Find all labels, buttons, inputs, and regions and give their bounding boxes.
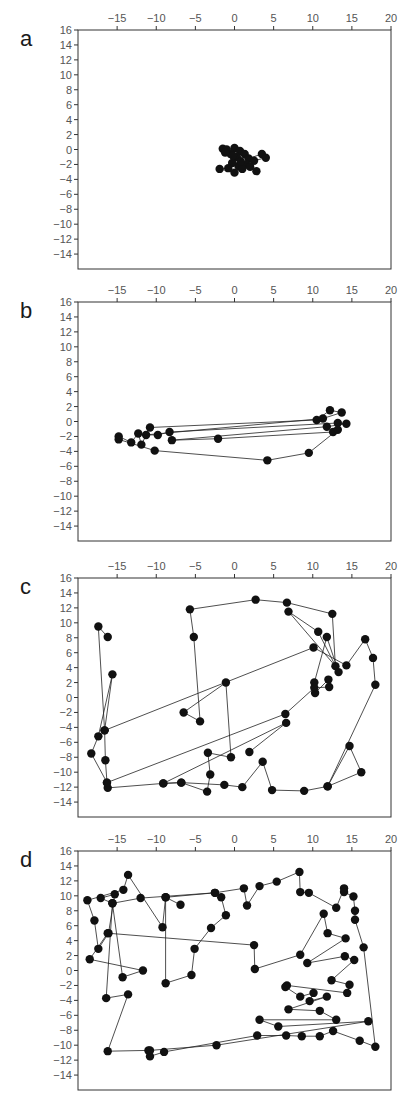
x-tick-label: −5 xyxy=(189,12,202,24)
y-tick-label: −4 xyxy=(59,994,72,1006)
x-tick-label: 10 xyxy=(307,833,319,845)
data-point xyxy=(190,633,198,641)
data-point xyxy=(238,165,246,173)
data-point xyxy=(258,758,266,766)
data-point xyxy=(323,633,331,641)
y-tick-label: 10 xyxy=(60,617,72,629)
data-point xyxy=(211,889,219,897)
data-point xyxy=(282,1031,290,1039)
x-tick-label: 5 xyxy=(271,560,277,572)
y-tick-label: 10 xyxy=(60,69,72,81)
figure: a−15−10−5051015201614121086420−2−4−6−8−1… xyxy=(0,0,407,1101)
data-point xyxy=(255,882,263,890)
data-point xyxy=(204,749,212,757)
data-point xyxy=(104,1047,112,1055)
y-tick-label: −12 xyxy=(53,233,72,245)
x-tick-label: 10 xyxy=(307,12,319,24)
data-point xyxy=(253,1031,261,1039)
y-tick-label: 14 xyxy=(60,587,72,599)
data-point xyxy=(127,438,135,446)
data-point xyxy=(101,756,109,764)
y-tick-label: −6 xyxy=(59,736,72,748)
data-point xyxy=(324,675,332,683)
data-point xyxy=(230,168,238,176)
y-tick-label: 0 xyxy=(66,965,72,977)
data-point xyxy=(90,916,98,924)
data-point xyxy=(320,910,328,918)
y-tick-label: 8 xyxy=(66,84,72,96)
data-point xyxy=(96,894,104,902)
y-tick-label: −6 xyxy=(59,188,72,200)
data-point xyxy=(251,965,259,973)
data-point xyxy=(146,423,154,431)
panel-label: a xyxy=(20,26,33,51)
data-point xyxy=(94,945,102,953)
y-tick-label: −12 xyxy=(53,1054,72,1066)
y-tick-label: 4 xyxy=(66,935,72,947)
data-point xyxy=(351,916,359,924)
data-point xyxy=(316,1032,324,1040)
data-point xyxy=(238,783,246,791)
data-point xyxy=(284,607,292,615)
x-tick-label: 20 xyxy=(385,833,397,845)
data-point xyxy=(214,434,222,442)
data-point xyxy=(102,994,110,1002)
y-tick-label: −8 xyxy=(59,1024,72,1036)
data-point xyxy=(179,708,187,716)
data-point xyxy=(334,668,342,676)
data-point xyxy=(186,605,194,613)
y-tick-label: −2 xyxy=(59,979,72,991)
x-tick-label: 20 xyxy=(385,12,397,24)
y-tick-label: 6 xyxy=(66,99,72,111)
data-point xyxy=(284,1005,292,1013)
data-point xyxy=(329,1027,337,1035)
data-point xyxy=(305,889,313,897)
y-tick-label: −8 xyxy=(59,751,72,763)
x-tick-label: 5 xyxy=(271,284,277,296)
data-point xyxy=(154,431,162,439)
data-point xyxy=(300,787,308,795)
y-tick-label: 6 xyxy=(66,371,72,383)
panel-c: c−15−10−5051015201614121086420−2−4−6−8−1… xyxy=(20,560,397,817)
y-tick-label: −12 xyxy=(53,781,72,793)
data-point xyxy=(118,973,126,981)
data-point xyxy=(268,786,276,794)
x-tick-label: 15 xyxy=(346,560,358,572)
x-tick-label: −15 xyxy=(108,560,127,572)
data-point xyxy=(296,951,304,959)
data-point xyxy=(237,157,245,165)
data-point xyxy=(309,643,317,651)
x-tick-label: 15 xyxy=(346,284,358,296)
plot-frame xyxy=(78,578,391,817)
data-point xyxy=(341,934,349,942)
y-tick-label: 16 xyxy=(60,296,72,308)
data-point xyxy=(262,154,270,162)
panel-label: c xyxy=(20,574,31,599)
y-tick-label: 8 xyxy=(66,356,72,368)
data-point xyxy=(158,923,166,931)
data-point xyxy=(305,997,313,1005)
y-tick-label: −14 xyxy=(53,248,72,260)
data-point xyxy=(283,598,291,606)
data-point xyxy=(196,717,204,725)
x-tick-label: −15 xyxy=(108,12,127,24)
x-tick-label: −10 xyxy=(147,12,166,24)
data-point xyxy=(190,945,198,953)
data-point xyxy=(305,449,313,457)
data-point xyxy=(150,446,158,454)
data-point xyxy=(340,888,348,896)
data-point xyxy=(274,1022,282,1030)
data-point xyxy=(161,979,169,987)
data-point xyxy=(298,1032,306,1040)
y-tick-label: 6 xyxy=(66,647,72,659)
data-point xyxy=(108,899,116,907)
y-tick-label: 14 xyxy=(60,39,72,51)
x-tick-label: −15 xyxy=(108,284,127,296)
y-tick-label: 2 xyxy=(66,129,72,141)
data-point xyxy=(134,429,142,437)
y-tick-label: −4 xyxy=(59,173,72,185)
data-point xyxy=(203,787,211,795)
data-point xyxy=(325,683,333,691)
data-point xyxy=(119,886,127,894)
data-point xyxy=(281,983,289,991)
